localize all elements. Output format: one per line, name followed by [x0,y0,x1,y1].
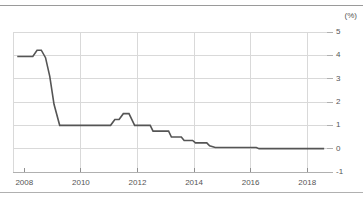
y-axis-tick-label: 1 [336,120,340,129]
line-chart-plot [0,0,363,204]
chart-figure: (%) -1012345 200820102012201420162018 [0,0,363,204]
y-axis-tick-label: 0 [336,144,340,153]
y-axis-tick-label: 5 [336,27,340,36]
x-axis-tick-label: 2008 [9,178,39,187]
y-axis-tick-label: 4 [336,50,340,59]
x-axis-tick-label: 2016 [236,178,266,187]
y-axis-tick-label: 2 [336,97,340,106]
x-axis-tick-label: 2012 [122,178,152,187]
gridlines-group [13,32,327,172]
x-axis-tick-label: 2014 [179,178,209,187]
x-axis-tick-label: 2010 [66,178,96,187]
series-line [17,50,324,148]
x-axis-tick-label: 2018 [292,178,322,187]
y-axis-tick-label: -1 [336,167,343,176]
y-axis-tick-label: 3 [336,74,340,83]
series-lines [17,50,324,148]
